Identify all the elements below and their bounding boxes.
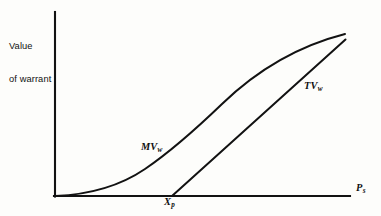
y-axis-title-line-1: Value bbox=[9, 41, 51, 52]
exercise-price-symbol: X bbox=[164, 196, 171, 207]
market-value-curve-label: MVw bbox=[141, 141, 162, 154]
x-axis-label: Ps bbox=[356, 182, 366, 195]
theoretical-value-line bbox=[172, 40, 346, 197]
theoretical-value-subscript: w bbox=[317, 85, 322, 93]
market-value-symbol: MV bbox=[141, 141, 157, 152]
theoretical-value-symbol: TV bbox=[304, 80, 317, 91]
x-axis-subscript: s bbox=[362, 187, 365, 195]
y-axis-title-line-2: of warrant bbox=[9, 74, 51, 85]
exercise-price-subscript: p bbox=[171, 201, 175, 209]
figure-canvas bbox=[0, 0, 381, 216]
market-value-subscript: w bbox=[157, 146, 162, 154]
theoretical-value-line-label: TVw bbox=[304, 80, 323, 93]
y-axis-title: Value of warrant bbox=[9, 19, 51, 107]
exercise-price-label: Xp bbox=[164, 196, 175, 209]
warrant-value-figure: Value of warrant MVw TVw Xp Ps bbox=[0, 0, 381, 216]
